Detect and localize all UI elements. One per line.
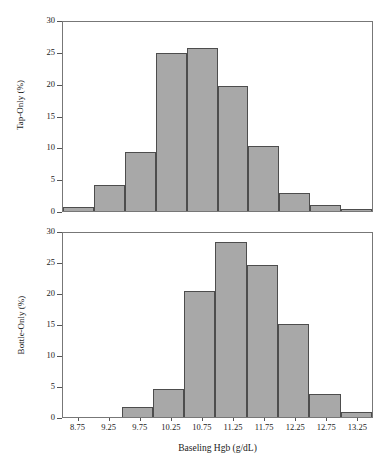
panel-bottle-only: 051015202530 Bottle-Only (%) 8.759.259.7… [0, 225, 382, 470]
x-tick-label: 12.25 [286, 422, 305, 432]
y-tick-label: 30 [47, 15, 56, 25]
y-axis-bottle-only: 051015202530 [0, 232, 62, 418]
x-tick: 9.75 [124, 418, 155, 438]
bar [153, 389, 184, 417]
x-tick: 11.75 [249, 418, 280, 438]
bar [156, 53, 187, 211]
x-tick: 11.25 [217, 418, 248, 438]
bar [310, 205, 341, 211]
bar [94, 185, 125, 211]
y-axis-title-tap-only: Tap-Only (%) [15, 65, 25, 145]
y-tick-label: 0 [51, 206, 55, 216]
bar [341, 412, 372, 417]
x-tick-label: 11.25 [224, 422, 243, 432]
x-tick-mark [357, 418, 358, 421]
x-tick: 12.75 [311, 418, 342, 438]
bar [248, 146, 279, 211]
bar-series-tap-only [63, 22, 372, 211]
x-tick-mark [233, 418, 234, 421]
plot-area-bottle-only [62, 232, 373, 418]
y-tick-label: 5 [51, 381, 55, 391]
x-tick-label: 9.75 [132, 422, 147, 432]
x-tick: 12.25 [280, 418, 311, 438]
x-axis: 8.759.259.7510.2510.7511.2511.7512.2512.… [62, 418, 373, 440]
x-tick-mark [295, 418, 296, 421]
x-tick-label: 10.75 [192, 422, 211, 432]
panel-tap-only: 051015202530 Tap-Only (%) [0, 0, 382, 225]
bar [279, 193, 310, 211]
x-tick-label: 8.75 [70, 422, 85, 432]
y-axis-tap-only: 051015202530 [0, 21, 62, 212]
y-tick-label: 25 [47, 257, 56, 267]
x-tick: 13.25 [342, 418, 373, 438]
y-axis-title-bottle-only: Bottle-Only (%) [16, 280, 26, 370]
bar [218, 86, 249, 211]
y-tick-label: 0 [51, 412, 55, 422]
y-tick-label: 10 [47, 350, 56, 360]
x-tick-mark [140, 418, 141, 421]
histogram-figure: 051015202530 Tap-Only (%) 051015202530 B… [0, 0, 382, 470]
x-tick-mark [264, 418, 265, 421]
y-tick-label: 5 [51, 174, 55, 184]
y-tick-label: 30 [47, 226, 56, 236]
x-tick-labels: 8.759.259.7510.2510.7511.2511.7512.2512.… [62, 418, 373, 438]
bar [122, 407, 153, 417]
x-axis-title: Baseling Hgb (g/dL) [62, 443, 373, 453]
bar [125, 152, 156, 211]
bar [247, 265, 278, 417]
x-tick-mark [109, 418, 110, 421]
y-tick-label: 10 [47, 142, 56, 152]
x-tick: 8.75 [62, 418, 93, 438]
x-tick-label: 9.25 [101, 422, 116, 432]
x-tick-mark [202, 418, 203, 421]
x-tick-label: 11.75 [255, 422, 274, 432]
bar [187, 48, 218, 211]
x-tick-mark [78, 418, 79, 421]
y-tick-mark [57, 212, 62, 213]
bar [63, 207, 94, 211]
x-tick: 10.25 [155, 418, 186, 438]
y-tick-label: 15 [47, 319, 56, 329]
bar [215, 242, 246, 417]
bar [278, 324, 309, 417]
bar [309, 394, 340, 417]
x-tick-label: 10.25 [161, 422, 180, 432]
y-tick-label: 15 [47, 111, 56, 121]
y-tick-label: 20 [47, 288, 56, 298]
bar [184, 291, 215, 417]
x-tick-mark [326, 418, 327, 421]
x-tick-mark [171, 418, 172, 421]
x-tick: 10.75 [186, 418, 217, 438]
bar [341, 209, 372, 211]
x-tick: 9.25 [93, 418, 124, 438]
x-tick-label: 13.25 [348, 422, 367, 432]
x-tick-label: 12.75 [317, 422, 336, 432]
bar-series-bottle-only [63, 233, 372, 417]
y-tick-label: 25 [47, 47, 56, 57]
y-tick-label: 20 [47, 79, 56, 89]
plot-area-tap-only [62, 21, 373, 212]
